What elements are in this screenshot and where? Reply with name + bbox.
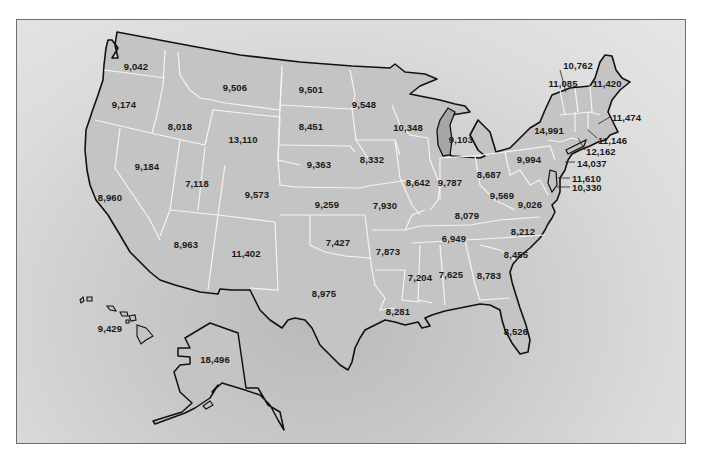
state-value-label-new-york: 14,991 (534, 125, 564, 136)
hawaii-islands (80, 297, 153, 344)
state-value-label-south-carolina: 8,455 (504, 249, 528, 260)
state-value-label-minnesota: 9,548 (352, 99, 376, 110)
state-value-label-oklahoma: 7,427 (326, 237, 350, 248)
state-value-label-nevada: 9,184 (135, 161, 159, 172)
state-value-label-mississippi: 7,204 (408, 272, 432, 283)
state-value-label-north-dakota: 9,501 (299, 84, 323, 95)
state-value-label-maryland: 10,330 (572, 182, 602, 193)
state-value-label-oregon: 9,174 (112, 99, 136, 110)
state-value-label-california: 8,960 (98, 192, 122, 203)
state-value-label-missouri: 7,930 (373, 200, 397, 211)
state-value-label-georgia: 8,783 (477, 270, 501, 281)
state-value-label-connecticut: 12,162 (586, 146, 616, 157)
state-value-label-new-mexico: 11,402 (231, 248, 260, 259)
alaska (153, 323, 284, 430)
state-value-label-new-jersey: 14,037 (577, 158, 607, 169)
state-value-label-ohio: 8,687 (477, 169, 501, 180)
state-value-label-wisconsin: 10,348 (393, 122, 423, 133)
state-value-label-hawaii: 9,429 (98, 323, 122, 334)
state-value-label-alabama: 7,625 (439, 269, 463, 280)
state-value-label-colorado: 9,573 (245, 189, 269, 200)
state-value-label-alaska: 18,496 (200, 354, 230, 365)
state-value-label-montana: 9,506 (223, 82, 247, 93)
state-value-label-nebraska: 9,363 (307, 159, 331, 170)
state-value-label-rhode-island: 11,146 (598, 135, 627, 146)
state-value-label-west-virginia: 9,569 (490, 190, 514, 201)
state-value-label-pennsylvania: 9,994 (517, 154, 541, 165)
state-value-label-south-dakota: 8,451 (299, 121, 323, 132)
state-value-label-iowa: 8,332 (360, 154, 384, 165)
state-value-label-virginia: 9,026 (518, 199, 542, 210)
state-value-label-north-carolina: 8,212 (511, 226, 535, 237)
state-value-label-arizona: 8,963 (174, 239, 198, 250)
state-value-label-indiana: 9,787 (438, 177, 462, 188)
state-value-label-tennessee: 6,949 (442, 233, 466, 244)
state-value-label-idaho: 8,018 (168, 121, 192, 132)
us-map (0, 0, 702, 460)
state-value-label-illinois: 8,642 (406, 177, 430, 188)
state-value-label-kansas: 9,259 (315, 199, 339, 210)
state-value-label-texas: 8,975 (312, 288, 336, 299)
state-value-label-utah: 7,118 (185, 178, 209, 189)
state-value-label-massachusetts: 11,474 (612, 112, 641, 123)
state-value-label-louisiana: 8,281 (386, 306, 410, 317)
state-value-label-maine: 11,420 (592, 78, 621, 89)
state-value-label-washington: 9,042 (124, 61, 148, 72)
state-value-label-new-hampshire: 10,762 (563, 60, 593, 71)
state-value-label-kentucky: 8,079 (455, 210, 479, 221)
state-value-label-wyoming: 13,110 (228, 134, 257, 145)
state-value-label-michigan: 9,103 (449, 134, 473, 145)
state-value-label-vermont: 11,085 (548, 78, 577, 89)
state-value-label-arkansas: 7,873 (376, 246, 400, 257)
state-value-label-florida: 8,526 (504, 326, 528, 337)
